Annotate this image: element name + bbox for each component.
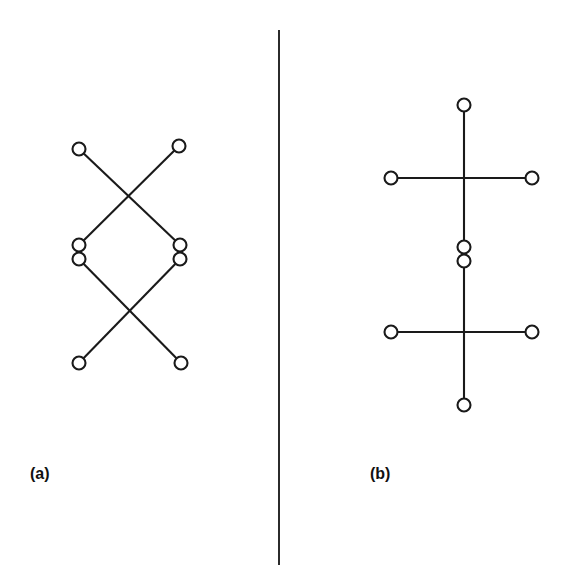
- node-a-bottom-left: [73, 357, 86, 370]
- node-b-upper-right: [526, 172, 539, 185]
- node-b-center-lower: [458, 255, 471, 268]
- node-a-mid-left-lower: [73, 253, 86, 266]
- edges-layer: [84, 112, 526, 399]
- node-a-mid-right-upper: [174, 239, 187, 252]
- node-a-bottom-right: [175, 357, 188, 370]
- node-b-bottom: [458, 399, 471, 412]
- figure-canvas: [0, 0, 567, 588]
- figure-root: (a) (b): [0, 0, 567, 588]
- node-b-lower-right: [526, 326, 539, 339]
- node-b-upper-left: [385, 172, 398, 185]
- node-b-center-upper: [458, 241, 471, 254]
- node-a-top-right: [173, 140, 186, 153]
- node-b-top: [458, 99, 471, 112]
- node-a-top-left: [73, 143, 86, 156]
- node-a-mid-left-upper: [73, 239, 86, 252]
- nodes-layer: [73, 99, 539, 412]
- node-a-mid-right-lower: [174, 253, 187, 266]
- panel-label-b: (b): [370, 465, 390, 483]
- panel-label-a: (a): [30, 465, 50, 483]
- node-b-lower-left: [385, 326, 398, 339]
